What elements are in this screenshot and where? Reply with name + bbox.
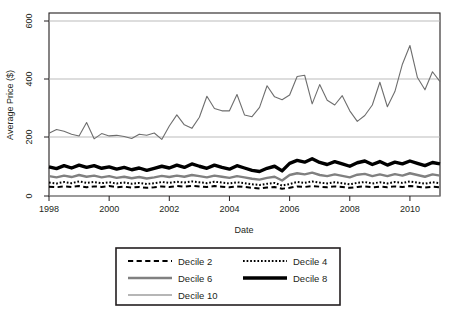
price-deciles-line-chart: Average Price ($) 600 400 200 0 19982000…: [0, 0, 456, 310]
x-tick-label-2010: 2010: [400, 204, 420, 214]
x-tick-label-2006: 2006: [280, 204, 300, 214]
y-tick-label-0: 0: [24, 193, 34, 198]
y-axis-title: Average Price ($): [5, 70, 15, 140]
y-tick-label-600: 600: [24, 13, 34, 28]
legend-label-decile-4: Decile 4: [293, 256, 327, 267]
y-tick-label-400: 400: [24, 71, 34, 86]
x-tick-label-2008: 2008: [340, 204, 360, 214]
legend-label-decile-8: Decile 8: [293, 273, 327, 284]
x-tick-label-1998: 1998: [39, 204, 59, 214]
y-tick-label-200: 200: [24, 129, 34, 144]
legend: Decile 2Decile 4Decile 6Decile 8Decile 1…: [116, 248, 340, 305]
x-tick-label-2004: 2004: [219, 204, 239, 214]
x-tick-label-2000: 2000: [99, 204, 119, 214]
legend-label-decile-6: Decile 6: [178, 273, 212, 284]
x-axis-title: Date: [234, 225, 253, 235]
legend-label-decile-2: Decile 2: [178, 256, 212, 267]
legend-label-decile-10: Decile 10: [178, 290, 218, 301]
x-tick-label-2002: 2002: [159, 204, 179, 214]
